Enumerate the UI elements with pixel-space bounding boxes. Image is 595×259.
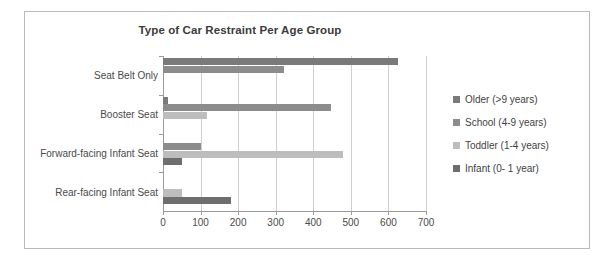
x-tick-400 <box>313 211 314 215</box>
x-axis-label-300: 300 <box>256 217 296 228</box>
legend-label-0: Older (>9 years) <box>465 94 538 105</box>
bar-2-3 <box>163 158 182 165</box>
gridline-500 <box>351 56 352 211</box>
x-axis-label-200: 200 <box>218 217 258 228</box>
x-axis-label-700: 700 <box>406 217 446 228</box>
category-label-2: Forward-facing Infant Seat <box>27 147 163 158</box>
legend-swatch-icon-1 <box>453 119 460 126</box>
x-tick-300 <box>276 211 277 215</box>
y-tick-0 <box>159 56 163 57</box>
plot-area <box>163 56 426 211</box>
x-axis-label-500: 500 <box>331 217 371 228</box>
bar-2-2 <box>163 151 343 158</box>
legend-item-2[interactable]: Toddler (1-4 years) <box>453 140 583 151</box>
gridline-200 <box>238 56 239 211</box>
category-label-0: Seat Belt Only <box>27 70 163 81</box>
x-tick-500 <box>351 211 352 215</box>
category-label-3: Rear-facing Infant Seat <box>27 186 163 197</box>
x-axis-label-100: 100 <box>181 217 221 228</box>
bar-0-1 <box>163 66 284 73</box>
bar-1-2 <box>163 112 207 119</box>
x-axis-label-0: 0 <box>143 217 183 228</box>
legend-item-1[interactable]: School (4-9 years) <box>453 117 583 128</box>
gridline-100 <box>201 56 202 211</box>
legend-label-3: Infant (0- 1 year) <box>465 163 539 174</box>
bar-2-1 <box>163 143 201 150</box>
legend-label-1: School (4-9 years) <box>465 117 547 128</box>
gridline-400 <box>313 56 314 211</box>
legend-swatch-icon-3 <box>453 165 460 172</box>
chart-frame: Type of Car Restraint Per Age Group Seat… <box>24 11 590 249</box>
gridline-300 <box>276 56 277 211</box>
x-tick-0 <box>163 211 164 215</box>
x-axis-label-600: 600 <box>368 217 408 228</box>
bar-0-0 <box>163 58 398 65</box>
y-tick-3 <box>159 172 163 173</box>
legend-item-3[interactable]: Infant (0- 1 year) <box>453 163 583 174</box>
category-label-1: Booster Seat <box>27 109 163 120</box>
x-tick-700 <box>426 211 427 215</box>
x-axis-label-400: 400 <box>293 217 333 228</box>
bar-1-1 <box>163 104 331 111</box>
x-axis-line <box>163 211 427 212</box>
x-tick-600 <box>388 211 389 215</box>
x-tick-200 <box>238 211 239 215</box>
bar-3-2 <box>163 189 182 196</box>
chart-title: Type of Car Restraint Per Age Group <box>25 24 455 36</box>
legend-swatch-icon-0 <box>453 96 460 103</box>
category-axis-labels: Seat Belt OnlyBooster SeatForward-facing… <box>25 56 163 211</box>
y-tick-1 <box>159 95 163 96</box>
bar-3-3 <box>163 197 231 204</box>
gridline-600 <box>388 56 389 211</box>
bar-1-0 <box>163 97 168 104</box>
x-tick-100 <box>201 211 202 215</box>
gridline-0 <box>163 56 164 211</box>
legend-swatch-icon-2 <box>453 142 460 149</box>
chart-legend: Older (>9 years)School (4-9 years)Toddle… <box>453 94 583 186</box>
legend-item-0[interactable]: Older (>9 years) <box>453 94 583 105</box>
y-tick-2 <box>159 134 163 135</box>
gridline-700 <box>426 56 427 211</box>
legend-label-2: Toddler (1-4 years) <box>465 140 549 151</box>
